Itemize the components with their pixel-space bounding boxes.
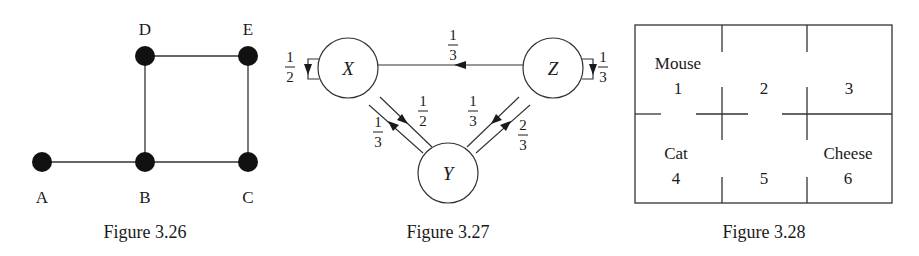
node-d bbox=[135, 46, 155, 66]
node-label-b: B bbox=[139, 188, 150, 207]
figure-caption: Figure 3.27 bbox=[407, 222, 490, 242]
node-label-a: A bbox=[36, 188, 49, 207]
node-label-e: E bbox=[243, 20, 253, 39]
svg-text:1: 1 bbox=[374, 114, 382, 130]
node-e bbox=[238, 46, 258, 66]
graph-edges bbox=[42, 56, 248, 162]
room-1-number: 1 bbox=[674, 79, 683, 98]
figure-3-26: A B C D E Figure 3.26 bbox=[32, 20, 258, 242]
svg-text:3: 3 bbox=[519, 137, 527, 153]
prob-y-z: 2 3 bbox=[518, 117, 528, 153]
svg-text:1: 1 bbox=[286, 49, 294, 65]
state-label-z: Z bbox=[548, 58, 559, 79]
svg-text:1: 1 bbox=[419, 93, 427, 109]
svg-text:2: 2 bbox=[419, 113, 427, 129]
svg-text:3: 3 bbox=[599, 69, 607, 85]
arrowhead-loop-x bbox=[304, 64, 312, 75]
svg-text:3: 3 bbox=[374, 134, 382, 150]
state-label-x: X bbox=[341, 58, 355, 79]
prob-y-x: 1 3 bbox=[373, 114, 383, 150]
figure-caption: Figure 3.28 bbox=[723, 222, 806, 242]
svg-text:1: 1 bbox=[599, 49, 607, 65]
svg-text:2: 2 bbox=[286, 69, 294, 85]
room-6-name: Cheese bbox=[823, 144, 872, 163]
figure-3-28-labels: Mouse 1 2 3 Cat 4 5 Cheese 6 Figure 3.28 bbox=[655, 54, 873, 242]
room-1-name: Mouse bbox=[655, 54, 701, 73]
room-4-name: Cat bbox=[664, 144, 688, 163]
prob-x-x: 1 2 bbox=[285, 49, 295, 85]
node-a bbox=[32, 152, 52, 172]
prob-x-y: 1 2 bbox=[418, 93, 428, 129]
node-b bbox=[135, 152, 155, 172]
room-6-number: 6 bbox=[844, 169, 853, 188]
figures-canvas: A B C D E Figure 3.26 X Y Z bbox=[0, 0, 919, 256]
svg-text:1: 1 bbox=[449, 27, 457, 43]
node-label-d: D bbox=[139, 20, 151, 39]
svg-text:3: 3 bbox=[469, 113, 477, 129]
node-c bbox=[238, 152, 258, 172]
node-label-c: C bbox=[242, 188, 253, 207]
room-4-number: 4 bbox=[672, 169, 681, 188]
svg-text:3: 3 bbox=[449, 47, 457, 63]
svg-text:2: 2 bbox=[519, 117, 527, 133]
figure-caption: Figure 3.26 bbox=[104, 222, 187, 242]
prob-z-z: 1 3 bbox=[598, 49, 608, 85]
arrowhead-loop-z bbox=[589, 64, 597, 75]
prob-z-x: 1 3 bbox=[448, 27, 458, 63]
room-3-number: 3 bbox=[845, 79, 854, 98]
prob-z-y: 1 3 bbox=[468, 93, 478, 129]
svg-text:1: 1 bbox=[469, 93, 477, 109]
room-2-number: 2 bbox=[760, 79, 769, 98]
room-5-number: 5 bbox=[760, 169, 769, 188]
